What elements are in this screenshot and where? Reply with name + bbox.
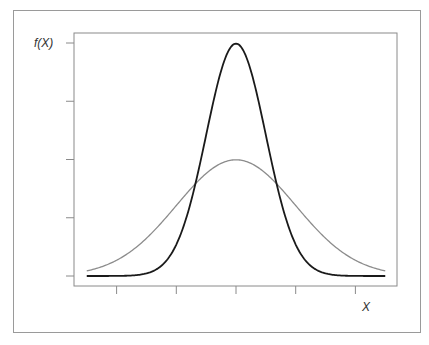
x-axis-ticks [117,286,356,294]
x-axis-label: X [362,300,370,314]
y-axis-ticks [66,43,74,276]
y-axis-label: f(X) [34,36,53,50]
density-plot [0,0,429,345]
wide-normal-curve [87,160,386,271]
